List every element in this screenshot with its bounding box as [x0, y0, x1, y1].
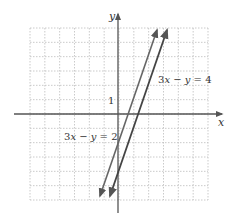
coordinate-plane: y x 1 3x − y = 4 3x − y = 2 [0, 0, 237, 223]
equation-label-4: 3x − y = 4 [158, 74, 212, 85]
tick-label-1: 1 [108, 95, 114, 106]
x-axis-label: x [218, 116, 225, 129]
y-axis-label: y [108, 10, 116, 23]
equation-label-2: 3x − y = 2 [64, 131, 118, 142]
